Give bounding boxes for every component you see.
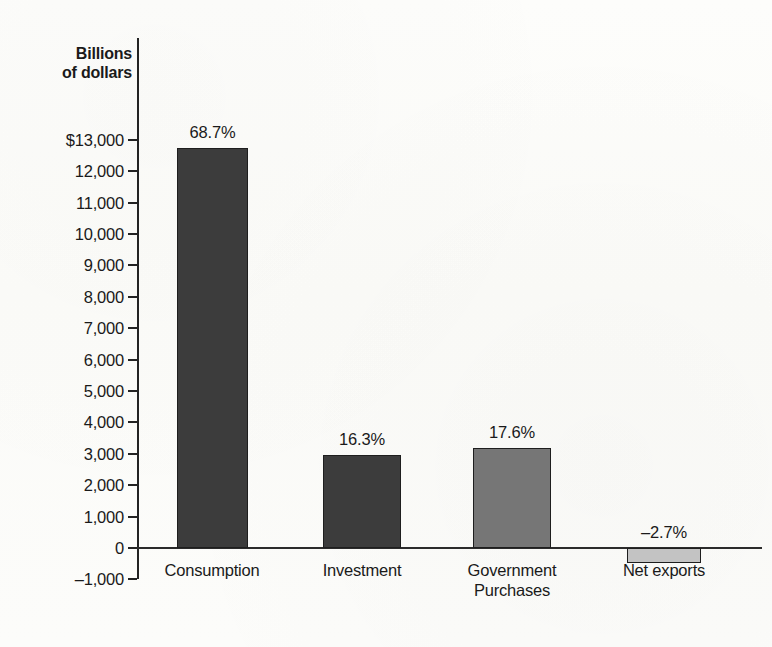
x-axis-category-label: Net exports (574, 560, 754, 580)
bar-value-label: 68.7% (153, 124, 273, 141)
bar-value-label: 16.3% (302, 431, 422, 448)
bar-consumption (177, 148, 248, 548)
x-axis-category-label-line: Purchases (422, 580, 602, 600)
bar-value-label: –2.7% (604, 524, 724, 541)
plot-area: 68.7%Consumption16.3%Investment17.6%Gove… (0, 0, 772, 647)
bar-government-purchases (473, 448, 551, 548)
chart-figure: Billions of dollars $13,00012,00011,0001… (0, 0, 772, 647)
bar-value-label: 17.6% (452, 424, 572, 441)
x-axis-category-label-line: Net exports (574, 560, 754, 580)
bar-investment (323, 455, 401, 548)
